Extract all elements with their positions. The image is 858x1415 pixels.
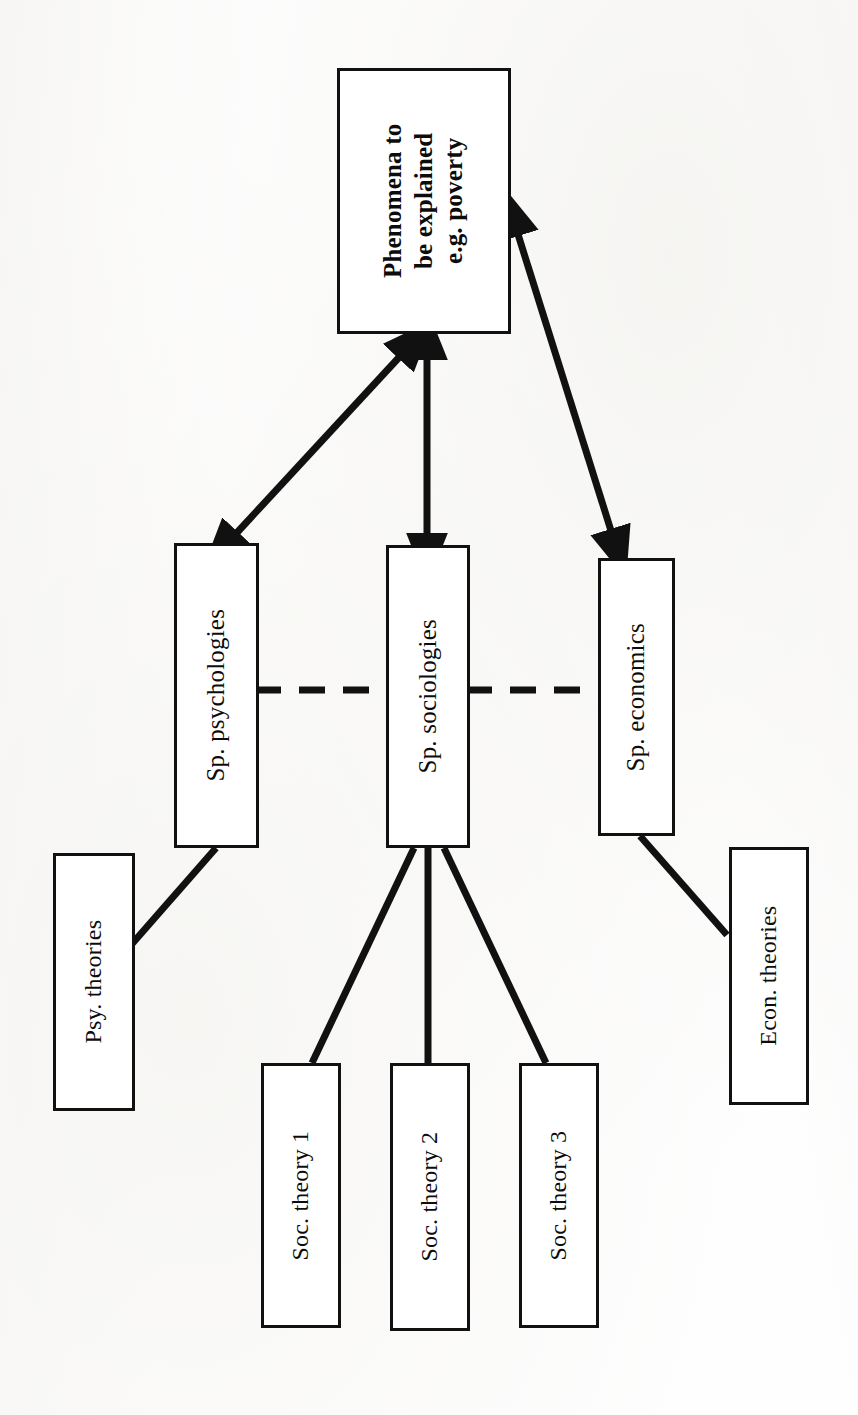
node-psy-theories-label: Psy. theories <box>79 920 108 1044</box>
node-sp-economics-label: Sp. economics <box>621 623 652 771</box>
node-soc-theory-3[interactable]: Soc. theory 3 <box>519 1063 599 1328</box>
node-econ-theories-label: Econ. theories <box>754 906 783 1046</box>
node-phenomena-label: Phenomena to be explained e.g. poverty <box>378 117 470 285</box>
connector-sociologies-soctheory3 <box>444 848 546 1063</box>
node-soc-theory-2[interactable]: Soc. theory 2 <box>390 1063 470 1331</box>
node-econ-theories[interactable]: Econ. theories <box>729 847 809 1105</box>
connector-phenomena-economics <box>516 228 613 537</box>
node-sp-sociologies-label: Sp. sociologies <box>413 619 444 773</box>
node-soc-theory-2-label: Soc. theory 2 <box>415 1132 444 1262</box>
node-sp-sociologies[interactable]: Sp. sociologies <box>386 545 470 848</box>
node-sp-psychologies-label: Sp. psychologies <box>201 609 232 782</box>
connector-phenomena-psychologies <box>232 352 404 538</box>
connector-sociologies-soctheory1 <box>312 848 414 1063</box>
node-soc-theory-1-label: Soc. theory 1 <box>286 1131 315 1261</box>
diagram-page: Phenomena to be explained e.g. poverty S… <box>0 0 858 1415</box>
connector-economics-econtheories <box>640 836 727 935</box>
connector-psychologies-psytheories <box>131 848 216 945</box>
node-sp-psychologies[interactable]: Sp. psychologies <box>174 543 259 848</box>
node-psy-theories[interactable]: Psy. theories <box>53 853 135 1111</box>
node-phenomena[interactable]: Phenomena to be explained e.g. poverty <box>337 68 511 334</box>
node-soc-theory-3-label: Soc. theory 3 <box>544 1131 573 1261</box>
node-soc-theory-1[interactable]: Soc. theory 1 <box>261 1063 341 1328</box>
node-sp-economics[interactable]: Sp. economics <box>598 558 675 836</box>
